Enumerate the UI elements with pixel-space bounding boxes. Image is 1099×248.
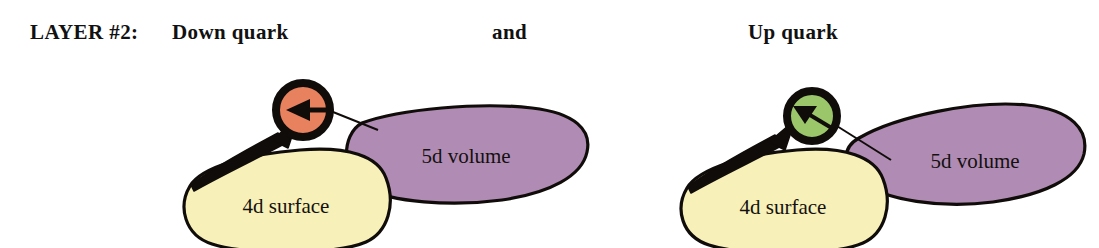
volume-label: 5d volume bbox=[421, 144, 510, 168]
up-quark-title: Up quark bbox=[748, 22, 838, 43]
figure-canvas: LAYER #2: Down quark and Up quark 4d sur… bbox=[0, 0, 1099, 248]
volume-label: 5d volume bbox=[930, 149, 1019, 173]
up-quark-diagram: 4d surface 5d volume bbox=[645, 78, 1099, 248]
conjunction-label: and bbox=[492, 22, 527, 43]
down-quark-title: Down quark bbox=[172, 22, 289, 43]
down-quark-diagram: 4d surface 5d volume bbox=[150, 78, 610, 248]
surface-label: 4d surface bbox=[740, 195, 827, 219]
surface-label: 4d surface bbox=[243, 194, 330, 218]
layer-label: LAYER #2: bbox=[30, 22, 138, 43]
